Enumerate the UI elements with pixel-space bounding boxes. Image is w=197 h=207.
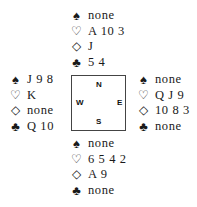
north-spades-cards: none: [88, 8, 115, 23]
compass-south-label: S: [96, 117, 101, 126]
compass-east-label: E: [117, 98, 122, 107]
club-icon: ♣: [71, 183, 82, 198]
heart-icon: ♡: [71, 24, 82, 39]
south-hearts-cards: 6 5 4 2: [88, 152, 127, 167]
heart-icon: ♡: [71, 152, 82, 167]
south-diamonds-cards: A 9: [88, 167, 108, 182]
club-icon: ♣: [71, 55, 82, 70]
east-diamonds-cards: 10 8 3: [155, 103, 190, 118]
diamond-icon: ◇: [10, 103, 21, 118]
east-clubs-cards: none: [155, 119, 182, 134]
west-hearts-cards: K: [27, 88, 37, 103]
spade-icon: ♠: [71, 136, 82, 151]
club-icon: ♣: [10, 119, 21, 134]
north-hearts-cards: A 10 3: [88, 24, 125, 39]
spade-icon: ♠: [138, 72, 149, 87]
north-clubs-cards: 5 4: [88, 55, 105, 70]
compass-box: N W E S: [71, 75, 126, 131]
compass-north-label: N: [96, 80, 102, 89]
spade-icon: ♠: [10, 72, 21, 87]
east-hearts-cards: Q J 9: [155, 88, 184, 103]
west-diamonds-cards: none: [27, 103, 54, 118]
east-spades-cards: none: [155, 72, 182, 87]
south-spades-cards: none: [88, 136, 115, 151]
diamond-icon: ◇: [138, 103, 149, 118]
heart-icon: ♡: [138, 88, 149, 103]
compass-west-label: W: [76, 98, 84, 107]
diamond-icon: ◇: [71, 39, 82, 54]
west-clubs-cards: Q 10: [27, 119, 54, 134]
club-icon: ♣: [138, 119, 149, 134]
diamond-icon: ◇: [71, 167, 82, 182]
spade-icon: ♠: [71, 8, 82, 23]
south-clubs-cards: none: [88, 183, 115, 198]
west-spades-cards: J 9 8: [27, 72, 54, 87]
heart-icon: ♡: [10, 88, 21, 103]
north-diamonds-cards: J: [88, 39, 93, 54]
